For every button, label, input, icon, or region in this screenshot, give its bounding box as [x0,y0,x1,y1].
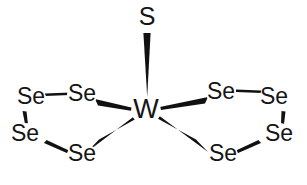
atom-label-selenium-upper-right-inner: Se [207,78,235,104]
atom-label-selenium-lower-right-inner: Se [209,140,237,166]
atom-label-selenium-upper-left-outer: Se [17,83,45,109]
atom-label-sulfur: S [139,2,156,30]
atom-label-selenium-lower-left-inner: Se [68,140,96,166]
atom-label-selenium-upper-left-inner: Se [68,80,96,106]
atom-label-tungsten: W [133,94,159,124]
atom-label-selenium-lower-right-outer: Se [265,120,293,146]
chemical-structure-diagram: S W Se Se Se Se Se Se Se Se [0,0,307,185]
structure-canvas: S W Se Se Se Se Se Se Se Se [0,0,307,185]
atom-label-selenium-upper-right-outer: Se [260,83,288,109]
atom-label-selenium-lower-left-outer: Se [11,120,39,146]
